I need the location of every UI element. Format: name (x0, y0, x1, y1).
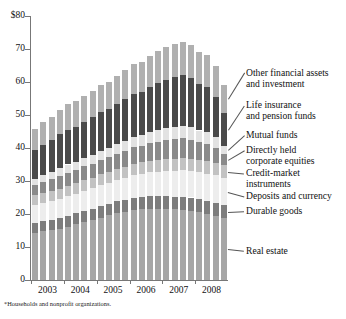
bar-segment (221, 154, 227, 166)
bar-segment (114, 154, 120, 169)
bar-segment (73, 183, 79, 193)
bar-segment (155, 83, 161, 130)
bar-2004-Q2 (73, 16, 79, 280)
bar-2004-Q4 (90, 16, 96, 280)
bar-segment (172, 209, 178, 280)
bar-segment (180, 210, 186, 280)
x-axis-tick (97, 280, 98, 284)
legend-leader-line (228, 73, 245, 100)
bar-segment (49, 172, 55, 179)
y-axis-tick (25, 82, 30, 83)
bar-segment (180, 75, 186, 125)
bar-2007-Q4 (188, 16, 194, 280)
y-axis-label: 50 (1, 110, 25, 120)
bar-segment (32, 205, 38, 223)
bar-segment (98, 206, 104, 218)
bar-segment (106, 157, 112, 172)
bar-segment (155, 209, 161, 280)
bar-segment (204, 87, 210, 133)
bar-segment (163, 47, 169, 79)
bar-segment (98, 85, 104, 112)
y-axis-tick (25, 280, 30, 281)
bar-segment (196, 84, 202, 131)
bar-segment (65, 130, 71, 165)
bar-segment (196, 212, 202, 280)
bar-segment (213, 97, 219, 138)
bar-segment (114, 144, 120, 154)
y-axis-tick (25, 16, 30, 17)
y-axis-label: 30 (1, 176, 25, 186)
chart-footnote: *Households and nonprofit organizations. (4, 300, 111, 308)
x-axis-label: 2008 (195, 285, 229, 295)
bar-segment (122, 151, 128, 167)
legend-label: Mutual funds (246, 130, 297, 141)
bar-segment (106, 183, 112, 204)
y-axis-tick (25, 181, 30, 182)
bar-2003-Q1 (32, 16, 38, 280)
bar-segment (57, 110, 63, 134)
bar-segment (163, 80, 169, 129)
bar-2005-Q2 (106, 16, 112, 280)
bar-segment (204, 161, 210, 174)
bar-segment (172, 171, 178, 197)
y-axis-label: $80 (1, 11, 25, 21)
bar-segment (40, 122, 46, 144)
bar-segment (147, 56, 153, 87)
bar-segment (172, 139, 178, 158)
legend-item: Other financial assetsand investment (246, 68, 329, 89)
bar-segment (106, 204, 112, 216)
bar-segment (155, 196, 161, 209)
bar-segment (221, 178, 227, 206)
bar-segment (155, 160, 161, 172)
bar-segment (57, 218, 63, 229)
bar-segment (163, 171, 169, 196)
bar-segment (172, 77, 178, 127)
y-axis-tick (25, 247, 30, 248)
bar-segment (32, 223, 38, 233)
bar-segment (155, 142, 161, 160)
legend-leader-line (228, 172, 244, 174)
bar-2004-Q1 (65, 16, 71, 280)
bar-segment (32, 179, 38, 185)
bar-segment (73, 127, 79, 162)
bar-segment (188, 159, 194, 172)
bar-segment (221, 146, 227, 154)
bar-2007-Q1 (163, 16, 169, 280)
legend-label-line2: instruments (246, 179, 300, 190)
bar-segment (213, 66, 219, 96)
bar-segment (172, 127, 178, 140)
bar-segment (139, 92, 145, 136)
bar-2006-Q4 (155, 16, 161, 280)
bar-segment (131, 94, 137, 137)
bar-segment (139, 162, 145, 174)
bar-segment (65, 186, 71, 196)
legend-label: Deposits and currency (246, 191, 332, 202)
bar-segment (131, 210, 137, 280)
bar-segment (155, 172, 161, 196)
bar-segment (172, 197, 178, 210)
legend-label: Real estate (246, 246, 288, 257)
legend-label-line2: and investment (246, 79, 329, 90)
bar-segment (122, 70, 128, 99)
bar-segment (114, 104, 120, 144)
bar-segment (81, 122, 87, 158)
bar-segment (147, 132, 153, 143)
bar-2005-Q1 (98, 16, 104, 280)
bar-segment (49, 117, 55, 140)
bar-segment (90, 155, 96, 164)
y-axis-label: 70 (1, 44, 25, 54)
bar-segment (180, 126, 186, 139)
bar-segment (73, 194, 79, 214)
bar-2003-Q2 (40, 16, 46, 280)
bar-2003-Q3 (49, 16, 55, 280)
bar-segment (163, 128, 169, 140)
bar-segment (196, 52, 202, 84)
bar-segment (81, 96, 87, 122)
bar-segment (221, 113, 227, 145)
bar-segment (106, 215, 112, 280)
household-assets-stacked-bar-chart: $80706050403020100 200320042005200620072… (0, 0, 346, 319)
bar-segment (90, 220, 96, 280)
x-axis-tick (195, 280, 196, 284)
bar-2005-Q3 (114, 16, 120, 280)
legend-label: Durable goods (246, 206, 302, 217)
